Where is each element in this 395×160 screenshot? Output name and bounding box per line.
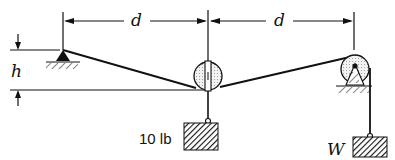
dimension-height: h — [10, 34, 205, 106]
height-label: h — [11, 61, 22, 81]
block-w: W — [327, 134, 387, 160]
pulley-right — [336, 55, 372, 93]
weight-right-label: W — [327, 139, 346, 159]
dim-right-label: d — [274, 10, 285, 30]
block-10lb: 10 lb — [139, 123, 218, 150]
dimension-top: d d — [63, 10, 354, 62]
pulley-diagram: d d h 10 lb — [0, 0, 395, 160]
weight-center-label: 10 lb — [139, 130, 172, 147]
pulley-center — [194, 61, 222, 124]
dim-left-label: d — [131, 10, 142, 30]
cable — [63, 50, 370, 134]
